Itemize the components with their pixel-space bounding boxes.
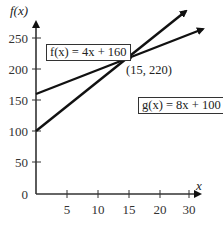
x-tick-10: 10 <box>92 202 105 217</box>
x-axis-title: x <box>196 178 202 194</box>
line-f <box>36 29 203 94</box>
y-axis-title: f(x) <box>10 3 28 19</box>
f-function-label: f(x) = 4x + 160 <box>46 44 131 61</box>
intersection-label: (15, 220) <box>126 63 172 78</box>
f-function-text: f(x) = 4x + 160 <box>50 45 127 59</box>
y-tick-50: 50 <box>15 155 28 170</box>
y-tick-200: 200 <box>9 62 29 77</box>
y-tick-0: 0 <box>22 187 29 202</box>
g-function-label: g(x) = 8x + 100 <box>138 97 223 114</box>
x-tick-20: 20 <box>154 202 167 217</box>
x-tick-5: 5 <box>64 202 71 217</box>
chart: 250 200 150 100 50 0 5 10 15 20 30 f(x) … <box>0 0 223 225</box>
y-tick-150: 150 <box>9 93 29 108</box>
g-function-text: g(x) = 8x + 100 <box>142 98 221 112</box>
x-tick-30: 30 <box>183 202 196 217</box>
y-tick-100: 100 <box>9 124 29 139</box>
x-tick-15: 15 <box>123 202 136 217</box>
y-tick-250: 250 <box>9 31 29 46</box>
